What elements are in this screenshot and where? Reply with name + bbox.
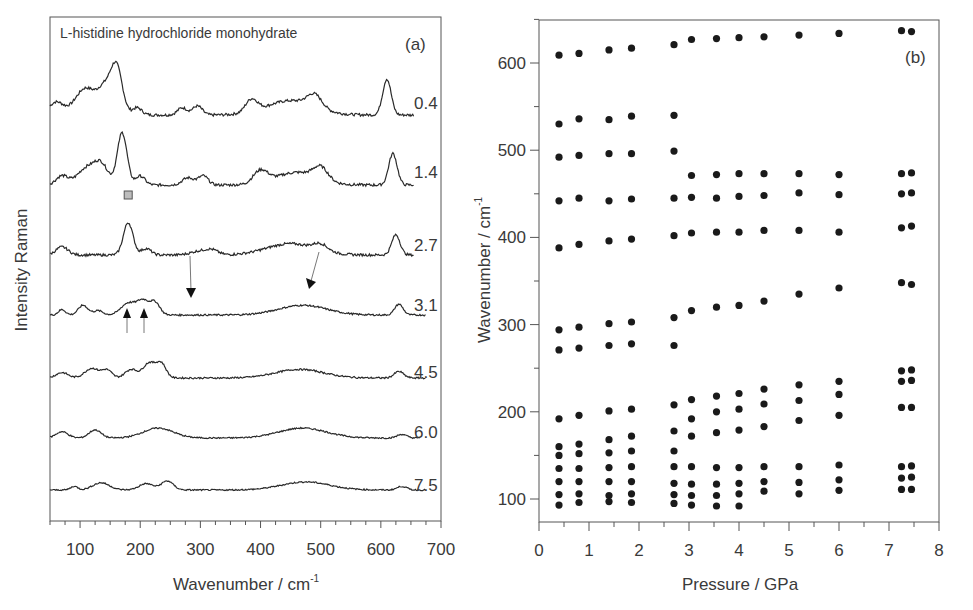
data-point: [670, 447, 677, 454]
data-point: [605, 197, 612, 204]
raman-trace-7.5: [50, 481, 425, 491]
data-point: [555, 452, 562, 459]
data-point: [575, 115, 582, 122]
data-point: [575, 195, 582, 202]
data-point: [908, 377, 915, 384]
data-point: [835, 229, 842, 236]
data-point: [908, 474, 915, 481]
data-point: [628, 447, 635, 454]
data-point: [670, 195, 677, 202]
pressure-label: 3.1: [414, 296, 438, 315]
raman-trace-2.7: [50, 223, 414, 256]
data-point: [713, 502, 720, 509]
data-point: [713, 195, 720, 202]
data-point: [795, 381, 802, 388]
data-point: [760, 488, 767, 495]
data-point: [735, 464, 742, 471]
data-point: [628, 236, 635, 243]
data-point: [735, 302, 742, 309]
panel-b-ylabel-sup: -1: [473, 196, 484, 205]
data-point: [795, 417, 802, 424]
data-point: [898, 190, 905, 197]
panel-a-xlabel-sup: -1: [310, 573, 319, 584]
data-point: [575, 412, 582, 419]
data-point: [605, 342, 612, 349]
data-point: [605, 46, 612, 53]
data-point: [605, 320, 612, 327]
data-point: [898, 486, 905, 493]
data-point: [670, 232, 677, 239]
data-point: [735, 427, 742, 434]
data-point: [735, 170, 742, 177]
data-point: [713, 429, 720, 436]
data-point: [575, 450, 582, 457]
data-point: [795, 189, 802, 196]
y-tick-label: 600: [498, 54, 526, 73]
data-point: [908, 169, 915, 176]
arrow-shaft: [311, 252, 319, 281]
data-point: [795, 490, 802, 497]
data-point: [670, 148, 677, 155]
data-point: [575, 345, 582, 352]
data-point: [735, 193, 742, 200]
arrow-shaft: [190, 256, 191, 291]
data-point: [605, 116, 612, 123]
data-point: [628, 195, 635, 202]
data-point: [735, 390, 742, 397]
data-point: [688, 492, 695, 499]
data-point: [605, 407, 612, 414]
data-point: [575, 478, 582, 485]
raman-trace-6.0: [50, 428, 420, 439]
x-tick-label: 700: [427, 540, 455, 559]
data-point: [575, 241, 582, 248]
data-point: [688, 36, 695, 43]
data-point: [735, 229, 742, 236]
data-point: [670, 314, 677, 321]
data-point: [760, 192, 767, 199]
data-point: [795, 479, 802, 486]
data-point: [795, 227, 802, 234]
square-marker: [124, 191, 132, 199]
data-point: [898, 404, 905, 411]
data-point: [735, 406, 742, 413]
raman-traces: [50, 61, 425, 490]
data-point: [835, 391, 842, 398]
data-point: [688, 433, 695, 440]
data-point: [628, 490, 635, 497]
x-tick-label: 300: [186, 540, 214, 559]
data-point: [835, 461, 842, 468]
data-point: [898, 378, 905, 385]
x-tick-label: 400: [246, 540, 274, 559]
data-point: [688, 396, 695, 403]
data-point: [835, 487, 842, 494]
data-point: [555, 491, 562, 498]
data-point: [605, 237, 612, 244]
data-point: [628, 406, 635, 413]
data-point: [898, 279, 905, 286]
data-point: [795, 31, 802, 38]
data-point: [908, 486, 915, 493]
x-tick-label: 8: [934, 541, 943, 560]
data-point: [835, 171, 842, 178]
data-point: [898, 224, 905, 231]
figure: 0.41.42.73.14.56.07.5 100200300400500600…: [0, 0, 973, 610]
pressure-label: 4.5: [414, 363, 438, 382]
data-point: [605, 449, 612, 456]
data-point: [575, 324, 582, 331]
data-point: [760, 423, 767, 430]
data-point: [795, 291, 802, 298]
data-point: [908, 404, 915, 411]
data-point: [575, 441, 582, 448]
data-point: [713, 304, 720, 311]
pressure-label: 6.0: [414, 423, 438, 442]
data-point: [628, 113, 635, 120]
panel-b-x-axis-label: Pressure / GPa: [682, 575, 799, 594]
data-point: [670, 491, 677, 498]
panel-a-x-axis-label: Wavenumber / cm-1: [173, 573, 320, 594]
data-point: [555, 465, 562, 472]
data-point: [688, 463, 695, 470]
data-point: [835, 378, 842, 385]
y-tick-label: 500: [498, 141, 526, 160]
data-point: [555, 326, 562, 333]
x-tick-label: 500: [307, 540, 335, 559]
